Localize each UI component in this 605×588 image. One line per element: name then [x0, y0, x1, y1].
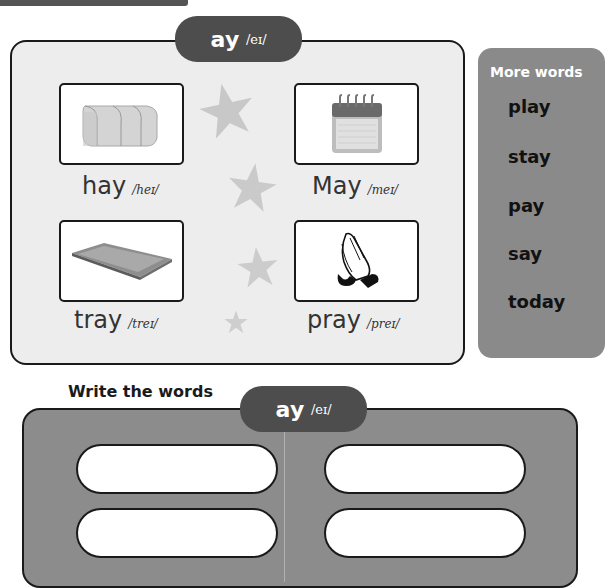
write-title: Write the words — [68, 382, 213, 401]
write-sound-ipa: /eɪ/ — [311, 402, 332, 417]
write-slot-3[interactable] — [76, 508, 278, 558]
write-divider — [284, 408, 285, 582]
more-word-item: today — [508, 291, 565, 312]
star-icon — [198, 82, 256, 138]
sound-letters: ay — [210, 27, 240, 52]
write-sound-pill: ay /eɪ/ — [240, 386, 367, 432]
write-slot-1[interactable] — [76, 444, 278, 494]
word-label-may: May /meɪ/ — [312, 172, 398, 200]
word-label-pray: pray /preɪ/ — [307, 306, 399, 334]
write-slot-2[interactable] — [324, 444, 526, 494]
star-icon — [226, 162, 278, 212]
write-slot-4[interactable] — [324, 508, 526, 558]
write-panel — [22, 408, 578, 588]
star-icon — [224, 310, 248, 334]
word-label-hay: hay /heɪ/ — [82, 172, 159, 200]
picture-card-pray — [294, 220, 419, 302]
more-word-item: play — [508, 96, 550, 117]
top-decorative-strip — [0, 0, 188, 6]
write-sound-letters: ay — [275, 397, 305, 422]
more-words-panel: More words play stay pay say today — [478, 48, 605, 358]
sound-ipa: /eɪ/ — [246, 32, 267, 47]
more-word-item: stay — [508, 146, 551, 167]
picture-card-hay — [59, 83, 184, 165]
calendar-icon — [327, 93, 387, 155]
word-label-tray: tray /treɪ/ — [74, 306, 158, 334]
tray-icon — [70, 241, 174, 281]
picture-card-may — [294, 83, 419, 165]
sound-pill: ay /eɪ/ — [175, 16, 302, 62]
hay-bale-icon — [77, 98, 167, 150]
more-word-item: say — [508, 243, 542, 264]
praying-hands-icon — [332, 230, 382, 292]
more-word-item: pay — [508, 195, 544, 216]
star-icon — [236, 246, 280, 288]
picture-card-tray — [59, 220, 184, 302]
more-words-title: More words — [490, 64, 583, 80]
